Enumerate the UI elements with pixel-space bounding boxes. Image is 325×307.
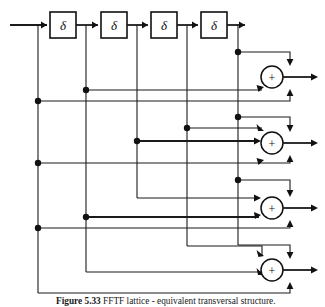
adder-2-group: + — [38, 117, 318, 165]
link-d2-d3-arrowhead — [142, 22, 148, 29]
link-d3-d4-arrowhead — [192, 22, 198, 29]
output-1-arrowhead — [311, 74, 318, 81]
junction-dot — [83, 214, 89, 220]
junction-dot — [35, 160, 41, 166]
output-2-arrowhead — [311, 140, 318, 147]
adder-4-bottom-feed — [38, 285, 290, 293]
adder-2-bottom-feed — [262, 158, 290, 163]
delay-block-1-label: δ — [60, 18, 67, 33]
junction-dot — [134, 138, 140, 144]
adder-3-top-arrowhead — [287, 190, 294, 197]
junction-dot — [235, 177, 241, 183]
delay-block-2-label: δ — [111, 18, 118, 33]
figure-container: δ δ δ δ — [0, 0, 325, 307]
adder-3-top-feed — [238, 180, 290, 194]
adder-3-upper-arrowhead — [254, 195, 261, 202]
adder-4-top-feed — [238, 245, 290, 256]
adder-2-left-arrowhead — [254, 138, 261, 145]
tap-rails — [38, 25, 238, 293]
adder-4-upper-left-arrowhead — [257, 250, 265, 257]
adder-2-upper-left-arrowhead — [257, 124, 265, 131]
adder-3-label: + — [269, 202, 276, 216]
junction-dot — [235, 114, 241, 120]
figure-caption: Figure 5.33 FFTF lattice - equivalent tr… — [0, 296, 325, 307]
link-d1-d2-arrowhead — [92, 22, 98, 29]
delay-chain: δ δ δ δ — [10, 12, 245, 38]
junction-dot — [184, 125, 190, 131]
input-arrowhead — [41, 22, 47, 29]
junction-dots — [35, 49, 241, 231]
output-4-arrowhead — [311, 267, 318, 274]
adder-1-group: + — [38, 52, 318, 101]
figure-caption-text: FFTF lattice - equivalent transversal st… — [103, 296, 275, 306]
adder-4-top-arrowhead — [287, 252, 294, 259]
adder-1-top-feed — [238, 52, 290, 63]
junction-dot — [35, 98, 41, 104]
adder-1-label: + — [269, 71, 276, 85]
adder-4-bottom-arrowhead — [287, 282, 294, 289]
adder-2-top-arrowhead — [287, 125, 294, 132]
junction-dot — [35, 225, 41, 231]
adder-1-top-arrowhead — [287, 59, 294, 66]
output-3-arrowhead — [311, 205, 318, 212]
adder-2-bottom-arrowhead — [287, 155, 294, 162]
junction-dot — [83, 87, 89, 93]
adder-3-bottom-arrowhead — [287, 220, 294, 227]
block-diagram-svg: δ δ δ δ — [0, 0, 325, 307]
junction-dot — [235, 49, 241, 55]
delay-block-4-label: δ — [211, 18, 218, 33]
adder-4-label: + — [269, 264, 276, 278]
adder-2-label: + — [269, 137, 276, 151]
adder-3-left-arrowhead — [254, 212, 261, 219]
adder-4-group: + — [38, 245, 318, 293]
adder-3-bottom-feed — [38, 223, 290, 228]
link-d4-out-arrowhead — [239, 22, 245, 29]
figure-caption-wrap: Figure 5.33 FFTF lattice - equivalent tr… — [0, 296, 325, 307]
adder-2-lower-left-arrowhead — [257, 158, 265, 165]
adder-2-top-feed — [238, 117, 290, 129]
adder-1-left-arrowhead — [257, 85, 265, 92]
adder-1-bottom-arrowhead — [287, 89, 294, 96]
delay-block-3-label: δ — [161, 18, 168, 33]
adder-3-group: + — [38, 180, 318, 228]
figure-caption-label: Figure 5.33 — [56, 296, 103, 306]
adder-4-upper-left-feed — [187, 246, 262, 256]
adder-1-bottom-feed — [38, 92, 290, 101]
